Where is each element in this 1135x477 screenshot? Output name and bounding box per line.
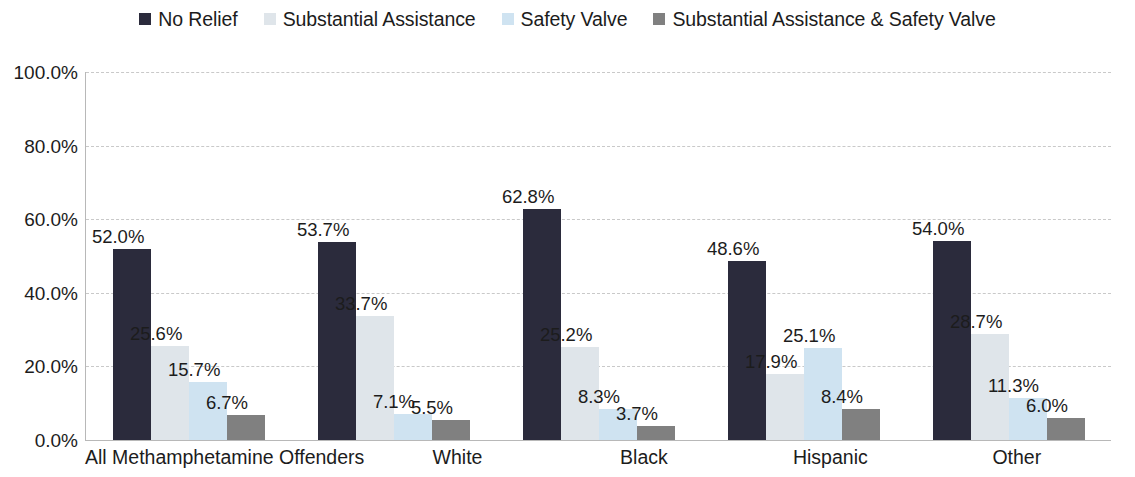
bar-slot: 5.5% bbox=[432, 72, 470, 440]
bar-group: 53.7%33.7%7.1%5.5% bbox=[291, 72, 496, 440]
bar[interactable] bbox=[318, 242, 356, 440]
bar[interactable] bbox=[227, 415, 265, 440]
x-axis-category-label: All Methamphetamine Offenders bbox=[85, 442, 364, 477]
bar-value-label: 6.0% bbox=[1026, 396, 1116, 415]
legend-item[interactable]: No Relief bbox=[139, 9, 237, 29]
bar[interactable] bbox=[842, 409, 880, 440]
bar-slot: 52.0% bbox=[113, 72, 151, 440]
bar-slot: 53.7% bbox=[318, 72, 356, 440]
bar[interactable] bbox=[394, 414, 432, 440]
legend-item[interactable]: Safety Valve bbox=[502, 9, 628, 29]
x-axis: All Methamphetamine OffendersWhiteBlackH… bbox=[85, 442, 1110, 477]
x-axis-category-label: Hispanic bbox=[737, 442, 923, 477]
bar-slot: 25.6% bbox=[151, 72, 189, 440]
legend-label: No Relief bbox=[158, 9, 237, 29]
bar-slot: 48.6% bbox=[728, 72, 766, 440]
bar-slot: 8.4% bbox=[842, 72, 880, 440]
bar-slot: 7.1% bbox=[394, 72, 432, 440]
bar-value-label: 3.7% bbox=[616, 404, 706, 423]
bar-groups: 52.0%25.6%15.7%6.7%53.7%33.7%7.1%5.5%62.… bbox=[86, 72, 1111, 440]
bar[interactable] bbox=[1047, 418, 1085, 440]
bar-group: 62.8%25.2%8.3%3.7% bbox=[496, 72, 701, 440]
bar-value-label: 8.4% bbox=[821, 387, 911, 406]
bar-slot: 11.3% bbox=[1009, 72, 1047, 440]
bar-slot: 8.3% bbox=[599, 72, 637, 440]
bar-group: 54.0%28.7%11.3%6.0% bbox=[906, 72, 1111, 440]
legend-label: Substantial Assistance bbox=[283, 9, 476, 29]
plot-area: 52.0%25.6%15.7%6.7%53.7%33.7%7.1%5.5%62.… bbox=[85, 72, 1111, 441]
bar-slot: 17.9% bbox=[766, 72, 804, 440]
bar-slot: 6.7% bbox=[227, 72, 265, 440]
bar[interactable] bbox=[766, 374, 804, 440]
y-axis-tick-label: 60.0% bbox=[0, 210, 78, 229]
legend-swatch-icon bbox=[653, 13, 665, 25]
x-axis-category-label: Other bbox=[924, 442, 1110, 477]
legend-label: Substantial Assistance & Safety Valve bbox=[672, 9, 995, 29]
bar-slot: 54.0% bbox=[933, 72, 971, 440]
bar-slot: 62.8% bbox=[523, 72, 561, 440]
bar[interactable] bbox=[432, 420, 470, 440]
bar[interactable] bbox=[113, 249, 151, 440]
chart-legend: No ReliefSubstantial AssistanceSafety Va… bbox=[0, 4, 1135, 34]
y-axis-tick-label: 100.0% bbox=[0, 63, 78, 82]
legend-label: Safety Valve bbox=[521, 9, 628, 29]
bar-slot: 6.0% bbox=[1047, 72, 1085, 440]
bar[interactable] bbox=[637, 426, 675, 440]
legend-swatch-icon bbox=[139, 13, 151, 25]
legend-item[interactable]: Substantial Assistance bbox=[264, 9, 476, 29]
legend-swatch-icon bbox=[502, 13, 514, 25]
bar-slot: 33.7% bbox=[356, 72, 394, 440]
legend-swatch-icon bbox=[264, 13, 276, 25]
y-axis-tick-label: 40.0% bbox=[0, 283, 78, 302]
bar-group: 52.0%25.6%15.7%6.7% bbox=[86, 72, 291, 440]
plot-wrapper: 100.0%80.0%60.0%40.0%20.0%0.0% 52.0%25.6… bbox=[0, 38, 1135, 477]
bar-group: 48.6%17.9%25.1%8.4% bbox=[701, 72, 906, 440]
bar-slot: 25.1% bbox=[804, 72, 842, 440]
y-axis-tick-label: 20.0% bbox=[0, 357, 78, 376]
y-axis-tick-label: 80.0% bbox=[0, 136, 78, 155]
bar-slot: 3.7% bbox=[637, 72, 675, 440]
bar[interactable] bbox=[356, 316, 394, 440]
x-axis-category-label: Black bbox=[551, 442, 737, 477]
bar-slot: 25.2% bbox=[561, 72, 599, 440]
y-axis-tick-label: 0.0% bbox=[0, 431, 78, 450]
legend-item[interactable]: Substantial Assistance & Safety Valve bbox=[653, 9, 995, 29]
bar-chart: No ReliefSubstantial AssistanceSafety Va… bbox=[0, 0, 1135, 477]
bar-value-label: 5.5% bbox=[411, 398, 501, 417]
bar-value-label: 6.7% bbox=[206, 393, 296, 412]
x-axis-category-label: White bbox=[364, 442, 550, 477]
bar[interactable] bbox=[933, 241, 971, 440]
y-axis: 100.0%80.0%60.0%40.0%20.0%0.0% bbox=[0, 38, 78, 408]
bar-slot: 15.7% bbox=[189, 72, 227, 440]
